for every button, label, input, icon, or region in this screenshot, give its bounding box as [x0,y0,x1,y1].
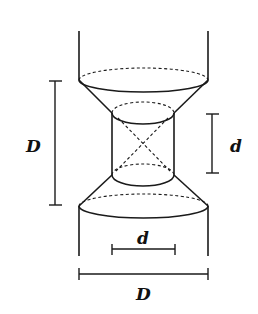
right-dimension-d [206,114,219,173]
lower-cone [79,175,208,206]
upper-cylinder [79,31,208,80]
label-left-D: D [25,136,41,156]
label-bottom-D: D [135,284,151,304]
bottom-dimension-D [79,268,208,280]
label-bottom-d: d [137,228,149,248]
middle-cylinder [112,113,174,175]
label-right-d: d [230,136,242,156]
diagram-canvas: D d d D [0,0,258,314]
left-dimension-D [49,81,62,205]
upper-small-ellipse [112,102,174,124]
lower-small-ellipse [112,164,174,186]
upper-large-ellipse [79,68,208,92]
lower-large-ellipse [79,194,208,218]
upper-cone [79,80,208,113]
hourglass-figure: D d d D [0,0,258,314]
